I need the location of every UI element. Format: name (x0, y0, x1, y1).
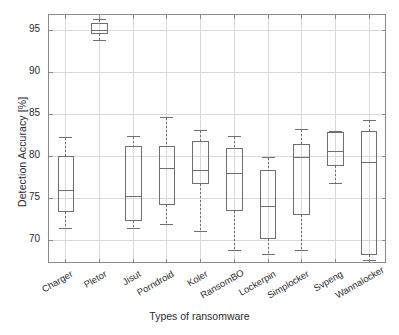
y-tick-label-85: 85 (14, 107, 40, 118)
y-tick-label-70: 70 (14, 233, 40, 244)
chart-figure: Detection Accuracy [%] Types of ransomwa… (0, 0, 399, 335)
y-tick-label-95: 95 (14, 23, 40, 34)
y-tick-label-75: 75 (14, 191, 40, 202)
y-tick-label-80: 80 (14, 149, 40, 160)
y-tick-label-90: 90 (14, 65, 40, 76)
x-axis-label: Types of ransomware (0, 310, 399, 322)
